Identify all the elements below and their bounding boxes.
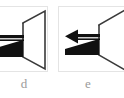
figure-panel-d [0, 6, 48, 72]
arrow-shaft-icon [77, 34, 100, 37]
arrow-shaft-gap-icon [0, 39, 24, 41]
diagram-e [59, 7, 124, 72]
panel-caption-e: e [78, 76, 98, 92]
arrow-shaft-gap-icon [77, 38, 100, 40]
figure-panel-e [58, 6, 124, 72]
cone-outline-icon [23, 11, 45, 69]
arrow-shaft-icon [0, 35, 24, 38]
cone-outline-icon [99, 10, 124, 70]
panel-caption-d: d [14, 76, 34, 92]
figure-panel-group: d e [0, 0, 124, 98]
diagram-d [0, 7, 48, 72]
arrow-head-left-icon [65, 30, 78, 44]
wedge-icon [65, 39, 99, 55]
wedge-icon [0, 40, 23, 57]
